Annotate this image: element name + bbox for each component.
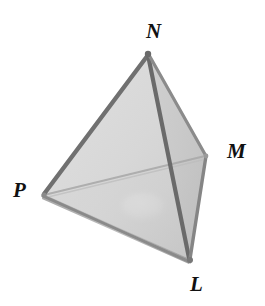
tetrahedron-graphic	[0, 0, 265, 306]
vertex-label-m: M	[227, 141, 246, 162]
vertex-l	[187, 257, 193, 263]
vertex-label-l: L	[190, 274, 203, 295]
tetrahedron-figure: N M P L	[0, 0, 265, 306]
vertex-p	[41, 192, 46, 197]
vertex-label-n: N	[146, 21, 161, 42]
vertex-label-p: P	[13, 180, 26, 201]
vertex-m	[204, 154, 209, 159]
vertex-n	[145, 51, 151, 57]
